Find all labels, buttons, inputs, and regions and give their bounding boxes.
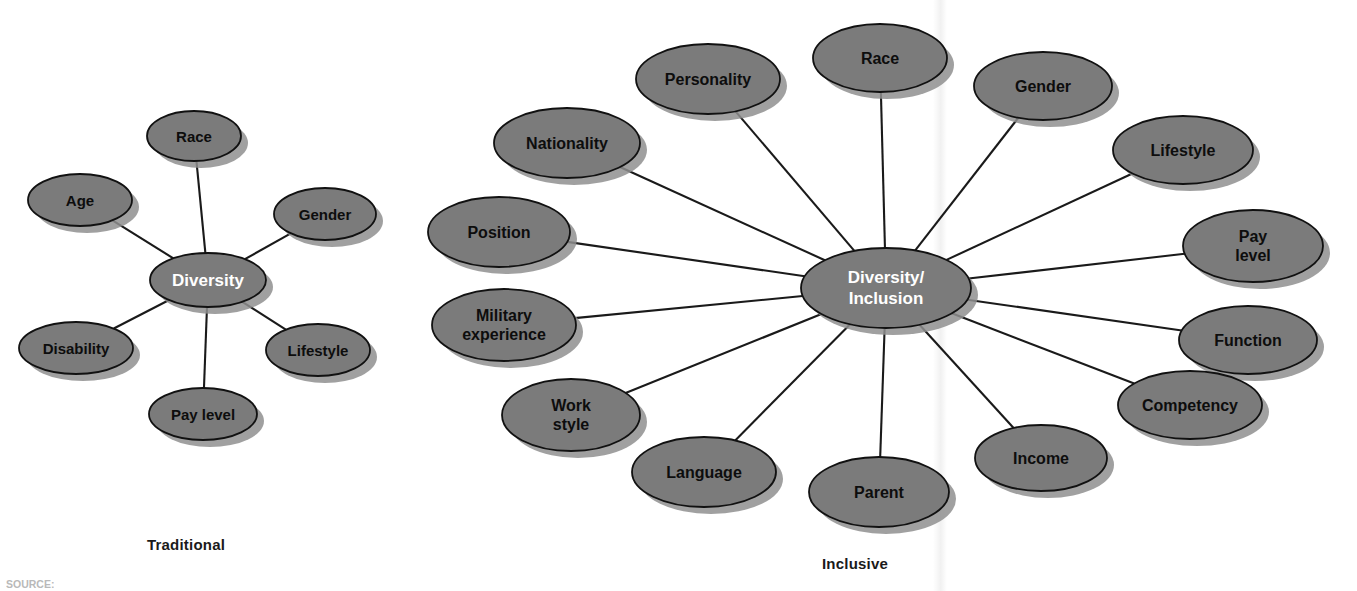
node-label: Income	[1013, 450, 1069, 467]
connector-line	[967, 300, 1181, 331]
node-label: Position	[467, 224, 530, 241]
diagram-node: Parent	[809, 457, 956, 534]
diagram-node: Function	[1179, 306, 1324, 381]
node-label: Work	[551, 397, 591, 414]
node-label: Diversity/	[848, 268, 925, 287]
node-label: style	[553, 416, 590, 433]
diagram-node: Race	[147, 111, 248, 168]
connector-line	[736, 111, 855, 251]
connector-line	[880, 328, 884, 457]
connector-line	[575, 296, 803, 318]
node-label: Disability	[43, 340, 110, 357]
connector-line	[946, 174, 1132, 260]
connector-line	[196, 161, 205, 253]
diagram-node: Income	[975, 425, 1114, 498]
diagram-node: Pay level	[149, 388, 264, 447]
caption-inclusive: Inclusive	[822, 555, 888, 572]
node-label: Pay	[1239, 228, 1268, 245]
diagram-node: Diversity	[150, 253, 273, 314]
connector-line	[920, 325, 1014, 428]
connector-line	[245, 233, 291, 259]
diagram-node: Position	[428, 197, 577, 274]
diagram-node: Race	[813, 24, 954, 99]
node-label: Military	[476, 307, 532, 324]
node-label: Parent	[854, 484, 904, 501]
node-label: Pay level	[171, 406, 235, 423]
connector-line	[114, 300, 169, 329]
diagram-node: Disability	[19, 322, 140, 381]
node-label: Age	[66, 192, 94, 209]
diagram-node: Nationality	[494, 108, 647, 185]
node-label: Function	[1214, 332, 1282, 349]
connector-line	[204, 307, 207, 388]
diagram-node: Competency	[1118, 371, 1269, 446]
node-label: Language	[666, 464, 742, 481]
diversity-inclusion-diagram: RaceGenderLifestylePay levelDisabilityAg…	[0, 0, 1357, 591]
diagram-node: Lifestyle	[266, 324, 377, 383]
connector-line	[952, 313, 1134, 383]
source-note: SOURCE:	[6, 578, 54, 591]
node-label: Gender	[299, 206, 352, 223]
diagram-node: Gender	[274, 188, 383, 247]
connector-line	[567, 242, 805, 276]
node-label: Diversity	[172, 271, 244, 290]
diagram-node: Gender	[974, 52, 1119, 127]
connector-line	[626, 314, 822, 393]
diagram-node: Militaryexperience	[432, 289, 583, 368]
connector-line	[881, 92, 885, 248]
node-label: Competency	[1142, 397, 1238, 414]
connector-line	[969, 254, 1185, 279]
diagram-node: Diversity/Inclusion	[801, 248, 978, 335]
node-label: Race	[176, 128, 212, 145]
node-label: Gender	[1015, 78, 1071, 95]
nodes-layer: RaceGenderLifestylePay levelDisabilityAg…	[19, 24, 1330, 534]
node-label: Personality	[665, 71, 751, 88]
node-label: level	[1235, 247, 1271, 264]
node-label: Lifestyle	[288, 342, 349, 359]
node-label: Lifestyle	[1151, 142, 1216, 159]
diagram-node: Workstyle	[502, 379, 647, 458]
diagram-node: Paylevel	[1183, 210, 1330, 289]
diagram-node: Personality	[636, 44, 787, 121]
node-label: Inclusion	[849, 289, 924, 308]
node-label: experience	[462, 326, 546, 343]
connector-line	[915, 118, 1018, 251]
diagram-node: Age	[28, 174, 139, 233]
caption-traditional: Traditional	[147, 536, 225, 553]
diagram-node: Language	[632, 437, 783, 514]
node-label: Nationality	[526, 135, 608, 152]
diagram-page: RaceGenderLifestylePay levelDisabilityAg…	[0, 0, 1357, 591]
node-label: Race	[861, 50, 899, 67]
connector-lines-layer	[112, 92, 1184, 457]
diagram-node: Lifestyle	[1113, 116, 1260, 191]
